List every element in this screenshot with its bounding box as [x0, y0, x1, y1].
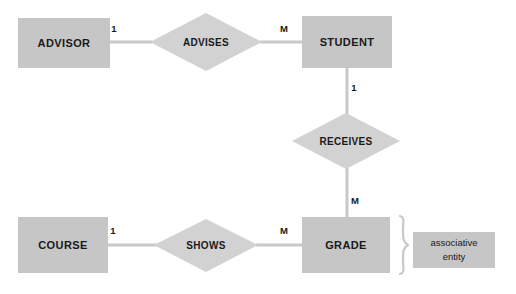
relationship-label-advises: ADVISES	[183, 37, 229, 48]
entity-label-course: COURSE	[38, 239, 87, 251]
note-label-line2: entity	[443, 251, 466, 262]
er-diagram-svg: ADVISES RECEIVES SHOWS ADVISOR STUDENT C…	[0, 0, 516, 294]
entity-course[interactable]: COURSE	[18, 217, 108, 273]
cardinality-advises-student: M	[280, 23, 288, 34]
entity-grade[interactable]: GRADE	[302, 217, 390, 273]
cardinality-student-receives: 1	[351, 82, 357, 93]
relationship-label-shows: SHOWS	[186, 240, 225, 251]
relationship-receives[interactable]: RECEIVES	[292, 113, 400, 169]
relationship-advises[interactable]: ADVISES	[150, 13, 262, 71]
cardinality-receives-grade: M	[351, 195, 359, 206]
entity-student[interactable]: STUDENT	[302, 16, 392, 68]
relationship-shows[interactable]: SHOWS	[154, 219, 258, 272]
cardinality-shows-grade: M	[280, 225, 288, 236]
entity-label-grade: GRADE	[325, 239, 367, 251]
entity-label-advisor: ADVISOR	[38, 37, 91, 49]
note-label-line1: associative	[431, 237, 478, 248]
er-diagram-canvas: ADVISES RECEIVES SHOWS ADVISOR STUDENT C…	[0, 0, 516, 294]
curly-brace-icon	[400, 216, 408, 274]
relationship-label-receives: RECEIVES	[320, 136, 373, 147]
associative-entity-annotation: associative entity	[400, 216, 495, 274]
cardinality-advisor-advises: 1	[111, 23, 117, 34]
entity-advisor[interactable]: ADVISOR	[18, 18, 110, 68]
cardinality-course-shows: 1	[110, 225, 116, 236]
entity-label-student: STUDENT	[320, 36, 375, 48]
